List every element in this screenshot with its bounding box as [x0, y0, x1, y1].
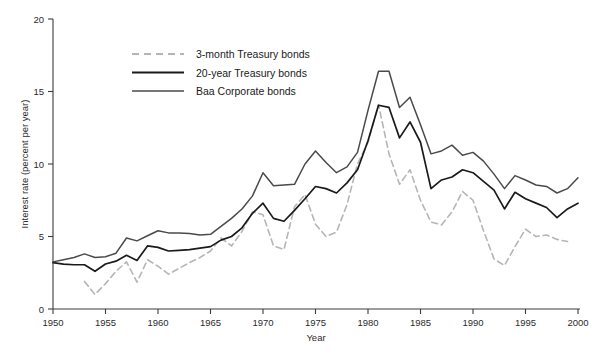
y-axis-ticks	[48, 19, 53, 309]
legend-label-1: 20-year Treasury bonds	[196, 67, 307, 79]
x-axis-ticks	[53, 309, 578, 314]
interest-rate-line-chart: 05101520 1950195519601965197019751980198…	[0, 0, 605, 355]
legend-label-2: Baa Corporate bonds	[196, 85, 296, 97]
x-tick-label-1965: 1965	[200, 317, 221, 328]
x-tick-label-1990: 1990	[462, 317, 483, 328]
series-group	[53, 71, 578, 294]
x-axis-tick-labels: 1950195519601965197019751980198519901995…	[42, 317, 588, 328]
x-tick-label-1975: 1975	[305, 317, 326, 328]
axes-group: 05101520 1950195519601965197019751980198…	[33, 14, 588, 329]
chart-legend: 3-month Treasury bonds20-year Treasury b…	[132, 48, 310, 97]
series-line-baa-corporate-bonds	[53, 71, 578, 262]
chart-container: 05101520 1950195519601965197019751980198…	[0, 0, 605, 355]
x-tick-label-1995: 1995	[515, 317, 536, 328]
x-tick-label-1955: 1955	[95, 317, 116, 328]
y-tick-label-10: 10	[33, 159, 44, 170]
x-tick-label-1985: 1985	[410, 317, 431, 328]
x-tick-label-1950: 1950	[42, 317, 63, 328]
cut-off-caption	[150, 347, 490, 355]
y-axis-title: Interest rate (percent per year)	[19, 100, 30, 229]
y-tick-label-0: 0	[39, 304, 44, 315]
x-tick-label-1970: 1970	[252, 317, 273, 328]
series-line-3-month-treasury-bonds	[85, 105, 568, 295]
x-axis-title: Year	[306, 332, 325, 343]
legend-label-0: 3-month Treasury bonds	[196, 48, 310, 60]
y-tick-label-20: 20	[33, 14, 44, 25]
y-tick-label-15: 15	[33, 86, 44, 97]
x-tick-label-2000: 2000	[567, 317, 588, 328]
x-tick-label-1960: 1960	[147, 317, 168, 328]
y-tick-label-5: 5	[39, 231, 44, 242]
y-axis-tick-labels: 05101520	[33, 14, 44, 315]
x-tick-label-1980: 1980	[357, 317, 378, 328]
series-line-20-year-treasury-bonds	[53, 105, 578, 271]
